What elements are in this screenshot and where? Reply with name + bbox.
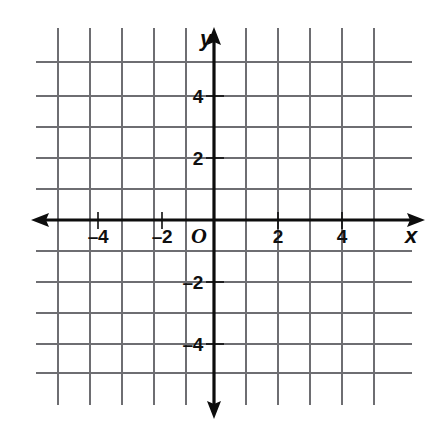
y-tick-label-2: 2 <box>193 148 203 169</box>
x-tick-label-2: 2 <box>273 226 283 247</box>
x-tick-label-minus-4: –4 <box>88 226 109 247</box>
x-axis-label: x <box>404 223 418 248</box>
y-tick-label-minus-2: –2 <box>182 272 203 293</box>
origin-label: O <box>191 223 207 248</box>
vertical-grid-lines <box>58 28 374 405</box>
y-axis <box>207 27 221 419</box>
x-tick-label-4: 4 <box>337 226 348 247</box>
y-tick-label-4: 4 <box>193 86 204 107</box>
y-tick-label-minus-4: –4 <box>182 334 203 355</box>
horizontal-grid-lines <box>36 62 412 373</box>
x-tick-label-minus-2: –2 <box>152 226 173 247</box>
coordinate-plane-svg: –4 –2 2 4 4 2 –2 –4 O y x <box>0 0 437 431</box>
y-axis-label: y <box>199 26 214 51</box>
coordinate-plane-figure: –4 –2 2 4 4 2 –2 –4 O y x <box>0 0 437 431</box>
